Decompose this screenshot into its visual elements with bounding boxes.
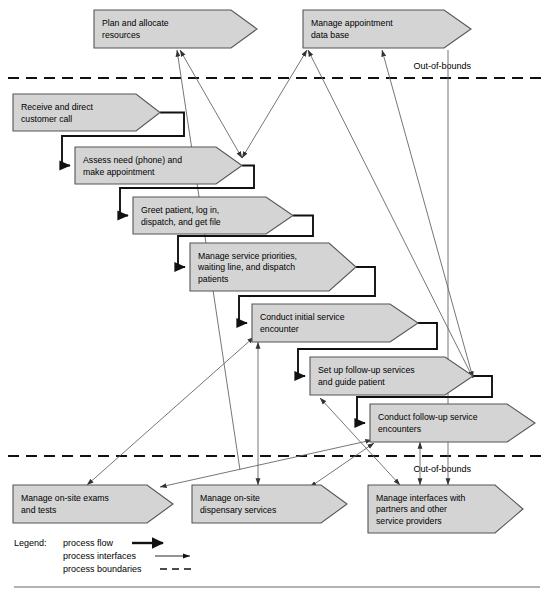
process-label-line: make appointment xyxy=(83,167,155,177)
chevron-shape xyxy=(310,357,473,395)
process-chevron[interactable]: Manage service priorities,waiting line, … xyxy=(190,243,356,291)
process-chevron[interactable]: Manage appointmentdata base xyxy=(303,10,471,48)
process-label-line: and tests xyxy=(21,505,57,515)
process-label-line: patients xyxy=(198,274,229,284)
process-label-line: resources xyxy=(102,30,141,40)
out-of-bounds-label: Out-of-bounds xyxy=(413,464,471,474)
legend-item-label: process flow xyxy=(63,538,114,548)
process-label-line: and guide patient xyxy=(318,377,385,387)
process-chevrons-layer: Plan and allocateresourcesManage appoint… xyxy=(13,10,535,533)
process-chevron[interactable]: Assess need (phone) andmake appointment xyxy=(75,147,242,184)
chevron-shape xyxy=(133,197,293,234)
process-label-line: dispatch, and get file xyxy=(141,217,221,227)
process-label-line: Manage interfaces with xyxy=(376,493,466,503)
process-label-line: Conduct initial service xyxy=(260,312,345,322)
process-label-line: dispensary services xyxy=(200,505,277,515)
process-interface-arrow xyxy=(310,443,374,487)
process-label-line: Receive and direct xyxy=(21,102,94,112)
process-label-line: encounter xyxy=(260,324,299,334)
process-label-line: Manage on-site xyxy=(200,493,260,503)
process-interface-arrow xyxy=(87,337,254,485)
process-label-line: waiting line, and dispatch xyxy=(197,262,295,272)
process-interface-arrow xyxy=(242,50,307,158)
chevron-shape xyxy=(192,485,347,523)
chevron-shape xyxy=(13,94,160,131)
process-chevron[interactable]: Conduct follow-up serviceencounters xyxy=(370,404,535,442)
chevron-shape xyxy=(370,404,535,442)
legend-item-label: process interfaces xyxy=(63,551,137,561)
process-label-line: Plan and allocate xyxy=(102,18,169,28)
process-label-line: Manage service priorities, xyxy=(198,251,297,261)
process-chevron[interactable]: Set up follow-up servicesand guide patie… xyxy=(310,357,473,395)
process-chevron[interactable]: Manage on-sitedispensary services xyxy=(192,485,347,523)
legend-layer: Legend:process flowprocess interfacespro… xyxy=(14,538,540,587)
process-chevron[interactable]: Conduct initial serviceencounter xyxy=(252,304,418,342)
chevron-shape xyxy=(94,10,257,48)
process-interface-arrow xyxy=(180,50,242,158)
process-label-line: data base xyxy=(311,30,349,40)
process-interface-arrow xyxy=(160,440,372,487)
process-label-line: Set up follow-up services xyxy=(318,365,415,375)
process-label-line: Greet patient, log in, xyxy=(141,205,219,215)
process-label-line: partners and other xyxy=(376,504,447,514)
chevron-shape xyxy=(303,10,471,48)
process-chevron[interactable]: Plan and allocateresources xyxy=(94,10,257,48)
legend-item-label: process boundaries xyxy=(63,564,142,574)
process-chevron[interactable]: Receive and directcustomer call xyxy=(13,94,160,131)
chevron-shape xyxy=(75,147,242,184)
chevron-shape xyxy=(252,304,418,342)
process-map-diagram: Out-of-boundsOut-of-bounds Plan and allo… xyxy=(0,0,553,595)
process-label-line: Manage appointment xyxy=(311,18,393,28)
process-label-line: Assess need (phone) and xyxy=(83,155,182,165)
process-label-line: Manage on-site exams xyxy=(21,493,110,503)
process-chevron[interactable]: Manage interfaces withpartners and other… xyxy=(368,485,523,533)
process-label-line: customer call xyxy=(21,114,72,124)
process-label-line: service providers xyxy=(376,516,442,526)
out-of-bounds-label: Out-of-bounds xyxy=(413,61,471,71)
legend-title: Legend: xyxy=(14,538,47,548)
process-label-line: Conduct follow-up service xyxy=(378,412,478,422)
process-chevron[interactable]: Greet patient, log in,dispatch, and get … xyxy=(133,197,293,234)
process-chevron[interactable]: Manage on-site examsand tests xyxy=(13,485,173,523)
chevron-shape xyxy=(13,485,173,523)
process-label-line: encounters xyxy=(378,424,422,434)
